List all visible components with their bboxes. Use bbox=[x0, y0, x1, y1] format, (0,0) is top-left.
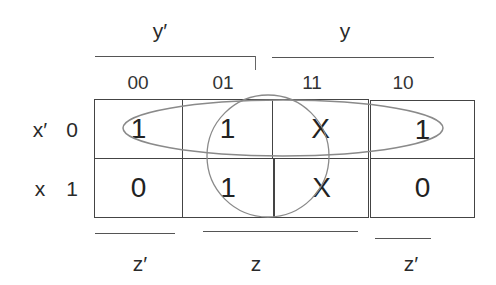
y-bracket bbox=[272, 57, 434, 58]
z-prime-left-bracket bbox=[95, 233, 175, 234]
bottom-label-z-prime-right: z′ bbox=[391, 253, 431, 274]
row-code-0: 0 bbox=[60, 119, 84, 140]
top-label-y-prime: y′ bbox=[140, 20, 180, 41]
cell-r0-c01: 1 bbox=[182, 99, 273, 159]
cell-r0-c10: 1 bbox=[370, 100, 475, 159]
z-bracket bbox=[203, 231, 358, 232]
column-code-00: 00 bbox=[118, 73, 158, 92]
top-label-y: y bbox=[325, 20, 365, 41]
row-var-x-prime: x′ bbox=[28, 119, 52, 140]
y-prime-bracket-tick bbox=[255, 56, 256, 70]
cell-r0-c00: 1 bbox=[94, 99, 183, 159]
y-prime-bracket bbox=[95, 56, 255, 57]
row-code-1: 1 bbox=[60, 178, 84, 199]
column-code-11: 11 bbox=[292, 73, 332, 92]
cell-r1-c11: X bbox=[274, 158, 369, 218]
column-code-01: 01 bbox=[203, 73, 243, 92]
cell-r1-c01: 1 bbox=[182, 158, 274, 218]
z-prime-right-bracket bbox=[375, 238, 431, 239]
bottom-label-z-prime-left: z′ bbox=[120, 253, 160, 274]
row-var-x: x bbox=[28, 178, 52, 199]
cell-r0-c11: X bbox=[272, 99, 369, 159]
cell-r1-c00: 0 bbox=[94, 158, 183, 218]
column-code-10: 10 bbox=[383, 73, 423, 92]
cell-r1-c10: 0 bbox=[370, 158, 475, 218]
bottom-label-z: z bbox=[236, 253, 276, 274]
